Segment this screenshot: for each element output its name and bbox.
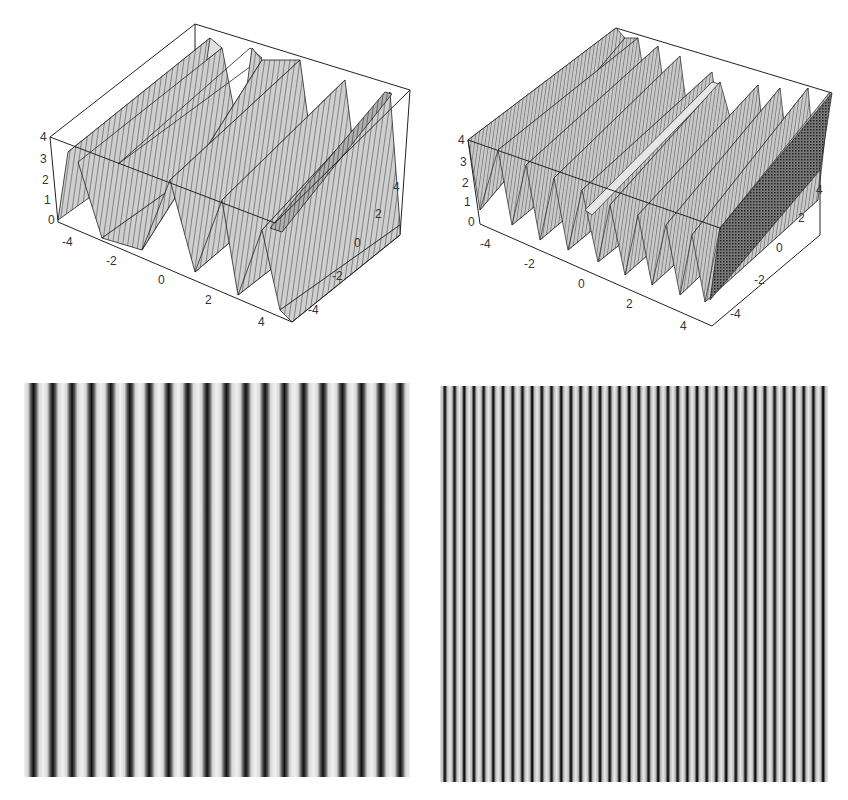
svg-text:2: 2 bbox=[205, 293, 212, 307]
svg-text:1: 1 bbox=[44, 193, 51, 207]
svg-text:-2: -2 bbox=[524, 257, 535, 271]
surface-plot-left: 4 3 2 1 0 -4 -2 0 2 4 4 2 0 -2 -4 bbox=[0, 0, 420, 340]
svg-text:-2: -2 bbox=[106, 254, 117, 268]
svg-text:4: 4 bbox=[393, 180, 400, 194]
svg-text:0: 0 bbox=[578, 277, 585, 291]
svg-text:1: 1 bbox=[464, 195, 471, 209]
svg-text:4: 4 bbox=[258, 315, 265, 329]
surface-ridges bbox=[468, 28, 832, 302]
svg-text:-4: -4 bbox=[308, 303, 319, 317]
svg-text:0: 0 bbox=[468, 215, 475, 229]
surface-ridges bbox=[58, 38, 400, 322]
svg-text:4: 4 bbox=[40, 130, 47, 144]
surface-plot-right-svg: 4 3 2 1 0 -4 -2 0 2 4 4 2 0 -2 -4 bbox=[420, 0, 848, 340]
svg-text:-4: -4 bbox=[480, 237, 491, 251]
svg-text:2: 2 bbox=[798, 211, 805, 225]
svg-text:0: 0 bbox=[354, 236, 361, 250]
svg-text:0: 0 bbox=[158, 273, 165, 287]
svg-text:2: 2 bbox=[375, 207, 382, 221]
density-image-left bbox=[24, 383, 410, 777]
svg-text:2: 2 bbox=[42, 173, 49, 187]
surface-plot-left-svg: 4 3 2 1 0 -4 -2 0 2 4 4 2 0 -2 -4 bbox=[0, 0, 420, 340]
density-image-right bbox=[440, 386, 828, 782]
svg-text:-4: -4 bbox=[62, 235, 73, 249]
svg-text:0: 0 bbox=[48, 213, 55, 227]
z-axis-labels: 4 3 2 1 0 bbox=[40, 130, 55, 227]
svg-text:3: 3 bbox=[40, 152, 47, 166]
svg-text:-2: -2 bbox=[754, 273, 765, 287]
surface-plot-right: 4 3 2 1 0 -4 -2 0 2 4 4 2 0 -2 -4 bbox=[420, 0, 848, 340]
svg-text:0: 0 bbox=[776, 241, 783, 255]
svg-text:2: 2 bbox=[462, 176, 469, 190]
svg-text:2: 2 bbox=[626, 297, 633, 311]
svg-text:-4: -4 bbox=[730, 307, 741, 321]
svg-text:4: 4 bbox=[458, 133, 465, 147]
svg-text:-2: -2 bbox=[332, 269, 343, 283]
svg-text:3: 3 bbox=[460, 155, 467, 169]
svg-text:4: 4 bbox=[680, 319, 687, 333]
svg-text:4: 4 bbox=[816, 183, 823, 197]
